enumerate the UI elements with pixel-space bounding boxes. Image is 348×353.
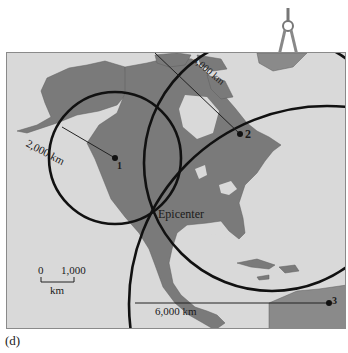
scale-unit: km: [50, 284, 64, 296]
station-3-radius-label: 6,000 km: [155, 305, 197, 317]
station-3-label: 3: [332, 295, 337, 306]
scale-end: 1,000: [61, 264, 86, 276]
triangulation-map-figure: 2,000 km 1 4,000 km 2 6,000 km 3 Epicent…: [0, 0, 348, 353]
station-2-label: 2: [245, 127, 251, 142]
epicenter-label: Epicenter: [158, 207, 204, 222]
panel-label: (d): [5, 333, 20, 349]
scale-start: 0: [38, 264, 44, 276]
station-1-label: 1: [117, 160, 122, 171]
